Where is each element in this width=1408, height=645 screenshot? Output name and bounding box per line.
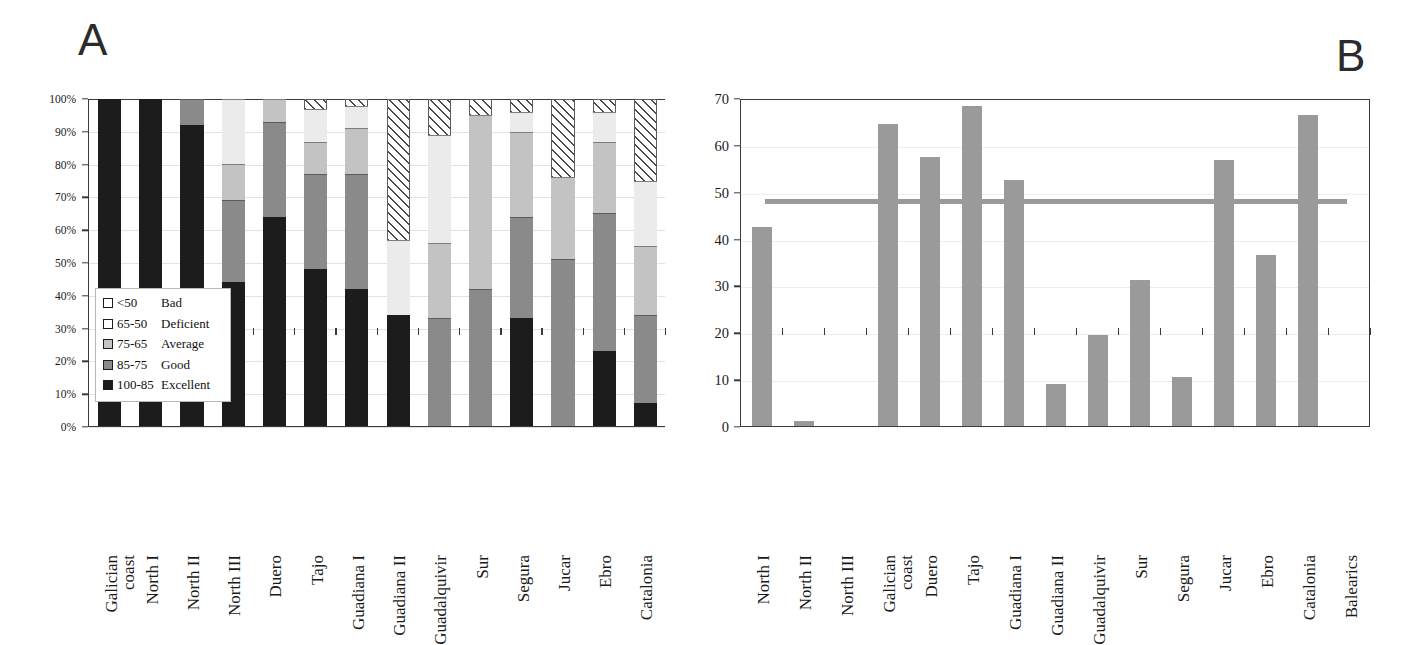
panel-a-bar-column[interactable] <box>263 99 286 426</box>
panel-a-segment-deficient <box>510 112 533 132</box>
panel-a-x-tick-mark <box>377 328 378 335</box>
panel-a-bar-column[interactable] <box>469 99 492 426</box>
panel-a-stacked-bar[interactable] <box>387 99 410 426</box>
panel-b-bar[interactable] <box>920 157 939 426</box>
panel-a-segment-good <box>634 315 657 403</box>
panel-b-bar[interactable] <box>752 227 771 426</box>
panel-a-stacked-bar[interactable] <box>428 99 451 426</box>
panel-b-plot-area <box>740 99 1370 427</box>
panel-a-stacked-bar[interactable] <box>263 99 286 426</box>
panel-b-bar[interactable] <box>1172 377 1191 426</box>
panel-b-x-label: Catalonia <box>1300 555 1320 620</box>
panel-a-x-tick-mark <box>583 328 584 335</box>
panel-a-segment-bad <box>304 99 327 109</box>
panel-a-bar-column[interactable] <box>593 99 616 426</box>
panel-b-x-tick-mark <box>1244 328 1245 335</box>
legend-item-good[interactable]: 85-75Good <box>103 355 224 376</box>
panel-b-bar[interactable] <box>1088 335 1107 426</box>
panel-a-y-tick-label: 30% <box>55 323 76 335</box>
panel-a-bar-column[interactable] <box>510 99 533 426</box>
panel-a-x-label: coast <box>119 555 139 590</box>
panel-a-segment-deficient <box>387 240 410 315</box>
panel-b-x-label: Segura <box>1174 555 1194 602</box>
panel-a-bar-column[interactable] <box>304 99 327 426</box>
panel-a-y-tick-label: 0% <box>61 421 76 433</box>
panel-a-stacked-bar[interactable] <box>593 99 616 426</box>
legend-item-excellent[interactable]: 100-85Excellent <box>103 375 224 396</box>
panel-a-stacked-bar[interactable] <box>634 99 657 426</box>
panel-a-segment-excellent <box>304 269 327 426</box>
panel-a-stacked-bar[interactable] <box>510 99 533 426</box>
panel-b-reference-line <box>765 199 1347 204</box>
panel-a-segment-average <box>551 177 574 259</box>
panel-a-bar-column[interactable] <box>551 99 574 426</box>
panel-a-segment-good <box>263 122 286 217</box>
legend-swatch-deficient-icon <box>103 319 113 329</box>
panel-a-x-label: Duero <box>266 555 286 597</box>
panel-a-segment-excellent <box>593 351 616 426</box>
panel-b-y-tick-label: 10 <box>715 372 730 389</box>
panel-b-bar[interactable] <box>1298 115 1317 426</box>
panel-a-legend: <50Bad65-50Deficient75-65Average85-75Goo… <box>95 288 231 402</box>
legend-label: Bad <box>161 295 182 311</box>
panel-a-bar-column[interactable] <box>345 99 368 426</box>
panel-a-segment-good <box>180 99 203 125</box>
panel-b-bar[interactable] <box>1256 255 1275 426</box>
legend-item-average[interactable]: 75-65Average <box>103 334 224 355</box>
legend-swatch-average-icon <box>103 339 113 349</box>
panel-b-x-tick-mark <box>1118 328 1119 335</box>
panel-a-segment-average <box>263 99 286 122</box>
panel-a-segment-bad <box>634 99 657 181</box>
legend-swatch-good-icon <box>103 360 113 370</box>
panel-a-segment-deficient <box>345 106 368 129</box>
panel-b-x-label: Sur <box>1132 555 1152 579</box>
panel-b-y-tick-label: 20 <box>715 325 730 342</box>
panel-a-segment-average <box>345 128 368 174</box>
panel-a-segment-average <box>593 142 616 214</box>
panel-a-segment-deficient <box>428 135 451 243</box>
legend-range: 100-85 <box>117 377 161 393</box>
panel-a-x-label: North I <box>143 555 163 605</box>
panel-b-bar[interactable] <box>962 106 981 426</box>
panel-b-x-tick-mark <box>1202 328 1203 335</box>
panel-a-bar-column[interactable] <box>387 99 410 426</box>
legend-item-bad[interactable]: <50Bad <box>103 293 224 314</box>
panel-a-stacked-bar[interactable] <box>469 99 492 426</box>
panel-a-stacked-bar[interactable] <box>304 99 327 426</box>
legend-label: Average <box>161 336 204 352</box>
legend-item-deficient[interactable]: 65-50Deficient <box>103 314 224 335</box>
panel-a-y-tick-label: 70% <box>55 191 76 203</box>
panel-a-x-tick-mark <box>459 328 460 335</box>
panel-b-x-tick-mark <box>1286 328 1287 335</box>
panel-b-x-label: Tajo <box>964 555 984 585</box>
panel-a-stacked-bar[interactable] <box>551 99 574 426</box>
panel-a-segment-deficient <box>593 112 616 141</box>
panel-a-y-tick-label: 80% <box>55 159 76 171</box>
panel-a-segment-bad <box>387 99 410 240</box>
panel-b-bar[interactable] <box>1004 180 1023 426</box>
panel-a-segment-bad <box>510 99 533 112</box>
panel-a-x-tick-mark <box>624 328 625 335</box>
panel-a-segment-good <box>222 200 245 282</box>
panel-b-x-label: coast <box>897 555 917 590</box>
panel-b-x-tick-mark <box>1076 328 1077 335</box>
panel-a-segment-average <box>510 132 533 217</box>
panel-a-segment-excellent <box>345 289 368 426</box>
panel-a-x-tick-mark <box>541 328 542 335</box>
panel-a-segment-average <box>428 243 451 318</box>
panel-b-bar[interactable] <box>1046 384 1065 426</box>
panel-b-bar[interactable] <box>1130 280 1149 426</box>
panel-b-bar[interactable] <box>878 124 897 426</box>
panel-a-y-tick-label: 60% <box>55 224 76 236</box>
panel-a-stacked-bar[interactable] <box>345 99 368 426</box>
panel-a-bar-column[interactable] <box>428 99 451 426</box>
panel-a-segment-good <box>345 174 368 288</box>
panel-a-bar-column[interactable] <box>634 99 657 426</box>
panel-a-x-label: North III <box>225 555 245 616</box>
panel-a-segment-average <box>469 115 492 288</box>
panel-b-bar[interactable] <box>794 421 813 426</box>
panel-a-segment-bad <box>551 99 574 177</box>
panel-b-x-tick-mark <box>1034 328 1035 335</box>
panel-b-x-tick-mark <box>824 328 825 335</box>
